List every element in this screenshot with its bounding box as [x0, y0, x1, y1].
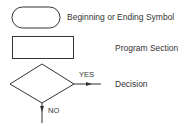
no-label: NO: [48, 106, 59, 115]
process-label: Program Section: [115, 43, 178, 53]
process-symbol: [13, 37, 74, 59]
decision-symbol: [10, 64, 74, 103]
yes-arrowhead-icon: [86, 82, 92, 86]
terminal-label: Beginning or Ending Symbol: [67, 12, 174, 22]
terminal-symbol: [12, 7, 60, 28]
no-arrowhead-icon: [40, 106, 44, 112]
decision-label: Decision: [115, 79, 148, 89]
yes-label: YES: [79, 70, 94, 79]
